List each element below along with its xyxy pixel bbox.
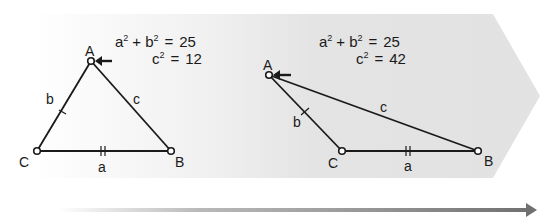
equation-line-2: c2=12	[152, 50, 202, 67]
side-a-label: a	[404, 158, 412, 174]
vertex-C-point[interactable]	[339, 148, 346, 155]
diagram-canvas: A C B b c a a2+b2=25 c2=12	[0, 0, 543, 223]
background-chevron-band	[30, 14, 540, 178]
vertex-C-label: C	[328, 155, 338, 171]
vertex-B-point[interactable]	[168, 148, 175, 155]
vertex-B-label: B	[484, 153, 493, 169]
vertex-B-label: B	[175, 154, 184, 170]
vertex-C-label: C	[19, 154, 29, 170]
arrow-right-icon	[526, 203, 537, 217]
side-a-label: a	[98, 159, 106, 175]
equation-line-2: c2=42	[356, 50, 406, 67]
side-b-label: b	[293, 114, 301, 130]
vertex-C-point[interactable]	[34, 148, 41, 155]
progress-arrow	[58, 203, 537, 217]
vertex-B-point[interactable]	[475, 148, 482, 155]
side-c-label: c	[380, 99, 387, 115]
vertex-A-label: A	[263, 57, 273, 73]
side-b-label: b	[46, 91, 54, 107]
side-c-label: c	[133, 91, 140, 107]
vertex-A-label: A	[85, 43, 95, 59]
